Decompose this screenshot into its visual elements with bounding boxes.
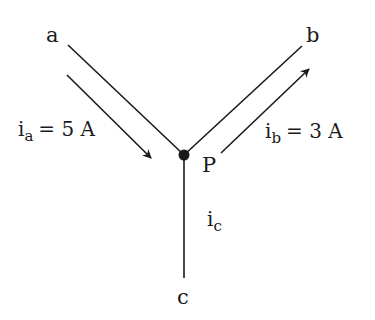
current-label-c: ic	[207, 207, 222, 235]
wire-b	[184, 46, 302, 155]
branch-label-a: a	[46, 23, 59, 47]
junction-diagram: a b c P ia= 5 A ib= 3 A ic	[0, 0, 375, 320]
current-label-a: ia= 5 A	[18, 117, 96, 145]
node-p-dot	[179, 150, 190, 161]
current-label-b: ib= 3 A	[265, 119, 343, 147]
branch-label-c: c	[177, 285, 189, 309]
node-label-p: P	[202, 153, 216, 177]
branch-label-b: b	[306, 23, 319, 47]
